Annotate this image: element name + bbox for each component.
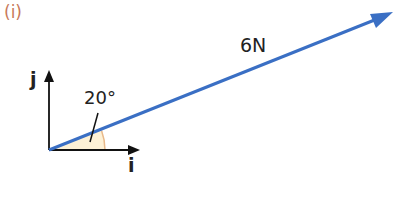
force-vector-arrowhead-icon <box>370 12 393 28</box>
magnitude-label: 6N <box>240 34 266 56</box>
j-axis-arrowhead-icon <box>44 70 54 82</box>
unit-vector-i-label: i <box>128 154 135 176</box>
force-vector <box>49 17 382 150</box>
unit-vector-j-label: j <box>30 68 37 90</box>
angle-label: 20° <box>84 87 116 108</box>
vector-diagram <box>0 0 398 206</box>
